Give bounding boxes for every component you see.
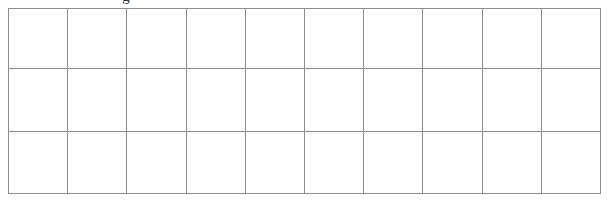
cell-text [305,132,363,137]
table-row[interactable] [9,9,601,69]
cell-text [68,132,126,137]
cell-text [542,9,600,14]
table-cell[interactable] [186,69,245,132]
table-cell[interactable] [9,69,68,132]
cell-text [187,9,245,14]
table-cell[interactable] [541,132,600,194]
table-cell[interactable] [245,9,304,69]
cell-text [9,69,67,74]
table-cell[interactable] [541,69,600,132]
cell-text [187,69,245,74]
table-cell[interactable] [364,9,423,69]
cell-text [246,69,304,74]
table-cell[interactable] [127,132,186,194]
clipped-glyph-descender: g [119,0,133,7]
cell-text [542,132,600,137]
table-cell[interactable] [482,132,541,194]
table-cell[interactable] [68,69,127,132]
cell-text [246,9,304,14]
cell-text [364,69,422,74]
table-cell[interactable] [482,9,541,69]
table-cell[interactable] [127,69,186,132]
cell-text [305,9,363,14]
cell-text [9,132,67,137]
cell-text [483,132,541,137]
table-cell[interactable] [127,9,186,69]
cell-text [483,9,541,14]
table-cell[interactable] [364,132,423,194]
cell-text [483,69,541,74]
table-cell[interactable] [68,132,127,194]
cell-text [423,9,481,14]
cell-text [127,9,185,14]
table-cell[interactable] [68,9,127,69]
cell-text [127,69,185,74]
table-cell[interactable] [482,69,541,132]
cell-text [127,132,185,137]
table-cell[interactable] [304,69,363,132]
table-cell[interactable] [541,9,600,69]
table-cell[interactable] [423,9,482,69]
blank-grid-table[interactable] [8,8,601,194]
table-body [9,9,601,194]
cell-text [542,69,600,74]
cell-text [68,9,126,14]
table-cell[interactable] [364,69,423,132]
page-canvas: g [0,0,610,201]
table-cell[interactable] [9,9,68,69]
table-cell[interactable] [423,132,482,194]
table-cell[interactable] [186,132,245,194]
table-cell[interactable] [9,132,68,194]
cell-text [246,132,304,137]
table-cell[interactable] [423,69,482,132]
table-cell[interactable] [304,9,363,69]
cell-text [305,69,363,74]
table-cell[interactable] [304,132,363,194]
cell-text [68,69,126,74]
table-row[interactable] [9,69,601,132]
cell-text [187,132,245,137]
table-cell[interactable] [245,132,304,194]
cell-text [9,9,67,14]
table-row[interactable] [9,132,601,194]
cell-text [423,69,481,74]
cell-text [364,9,422,14]
cell-text [364,132,422,137]
table-cell[interactable] [186,9,245,69]
table-cell[interactable] [245,69,304,132]
cell-text [423,132,481,137]
